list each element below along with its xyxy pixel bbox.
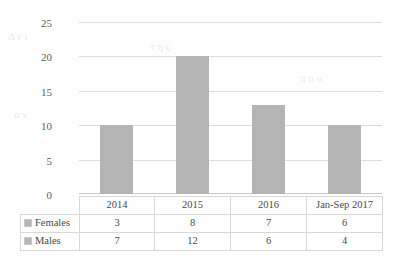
legend-label-males: Males	[35, 235, 61, 246]
table-header-jan-sep-2017: Jan-Sep 2017	[307, 197, 383, 215]
plot-area: 25 20 15 10 5 0	[79, 22, 382, 194]
scan-artifact: Δ ε ι	[8, 30, 28, 42]
legend-item-males: Males	[21, 233, 80, 251]
table-header-2015: 2015	[155, 197, 231, 215]
gridline-20	[79, 56, 382, 57]
y-tick-label-5: 5	[8, 156, 52, 167]
legend-swatch-icon	[24, 237, 32, 245]
cell-females-2014: 3	[80, 215, 155, 233]
cell-females-jan-sep-2017: 6	[307, 215, 383, 233]
cell-males-2016: 6	[231, 233, 307, 251]
table-row: Females 3 8 7 6	[21, 215, 383, 233]
data-table: 2014 2015 2016 Jan-Sep 2017 Females 3 8 …	[20, 196, 383, 251]
y-tick-label-10: 10	[8, 121, 52, 132]
chart-figure: Δ ε ι τ η ς α ν π ο υ 25 20 15 10 5 0	[0, 0, 403, 264]
table-header-row: 2014 2015 2016 Jan-Sep 2017	[21, 197, 383, 215]
table-row: Males 7 12 6 4	[21, 233, 383, 251]
cell-females-2016: 7	[231, 215, 307, 233]
legend-swatch-icon	[24, 219, 32, 227]
legend-item-females: Females	[21, 215, 80, 233]
bar-2016	[252, 105, 285, 194]
bar-jan-sep-2017	[328, 125, 361, 194]
gridline-25	[79, 22, 382, 23]
cell-males-2015: 12	[155, 233, 231, 251]
table-header-2016: 2016	[231, 197, 307, 215]
bar-2014	[100, 125, 133, 194]
scan-artifact: α ν	[14, 108, 28, 120]
bar-2015	[176, 56, 209, 194]
y-tick-label-20: 20	[8, 52, 52, 63]
table-corner-cell	[21, 197, 80, 215]
table-header-2014: 2014	[80, 197, 155, 215]
cell-females-2015: 8	[155, 215, 231, 233]
y-tick-label-15: 15	[8, 87, 52, 98]
legend-label-females: Females	[35, 217, 70, 228]
gridline-15	[79, 91, 382, 92]
cell-males-jan-sep-2017: 4	[307, 233, 383, 251]
y-tick-label-25: 25	[8, 18, 52, 29]
cell-males-2014: 7	[80, 233, 155, 251]
